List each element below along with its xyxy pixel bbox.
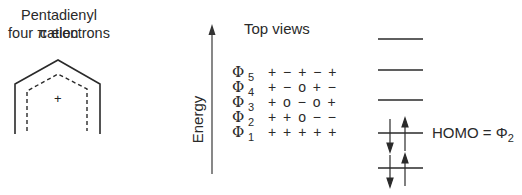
spin-up-arrow-icon [402,154,408,163]
energy-axis-label: Energy [189,90,206,150]
orbital-row-phi2: Φ2+ + o − − [232,109,338,125]
spin-up-arrow-icon [402,118,408,127]
energy-arrowhead-icon [209,24,216,35]
electron-pair-phi1 [387,154,408,187]
electron-pair-phi2 [387,118,408,152]
cation-charge: + [54,91,62,106]
orbital-row-phi5: Φ5+ − + − + [232,64,338,80]
orbital-row-phi3: Φ3+ o − o + [232,94,337,110]
energy-levels [378,39,423,168]
orbital-row-phi1: Φ1+ + + + + [232,124,338,140]
title-line-2: four π electrons [0,24,118,42]
spin-down-arrow-icon [387,143,393,152]
homo-label: HOMO = Φ2 [432,124,514,144]
orbital-row-phi4: Φ4+ − o + − [232,79,338,95]
top-views-header: Top views [244,20,310,37]
spin-down-arrow-icon [387,178,393,187]
